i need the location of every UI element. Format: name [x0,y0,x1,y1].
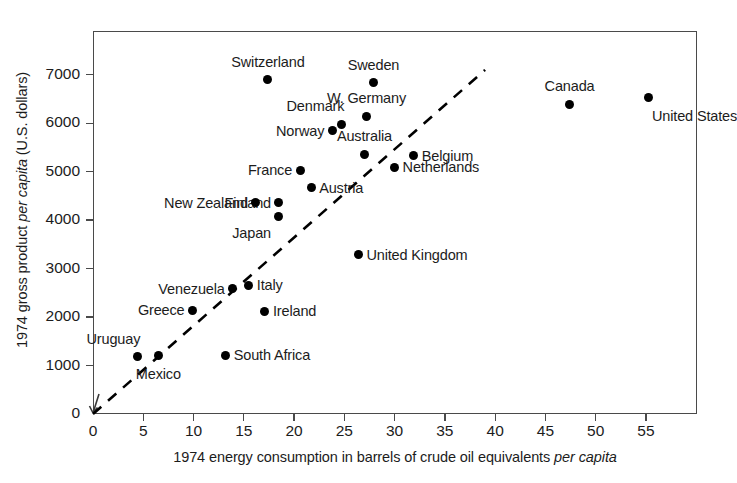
data-point-label: Canada [545,78,595,94]
x-tick-label: 20 [274,422,314,440]
data-point [221,351,230,360]
data-point-label: Mexico [136,366,181,382]
y-tick-mark [86,74,94,75]
data-point-label: France [248,162,292,178]
data-point-label: Australia [337,128,392,144]
data-point-label: South Africa [234,347,310,363]
x-tick-mark [595,413,596,421]
y-tick-label: 1000 [20,356,80,374]
x-tick-mark [293,413,294,421]
data-point-label: Greece [138,302,185,318]
y-tick-label: 7000 [20,65,80,83]
x-tick-label: 45 [525,422,565,440]
x-tick-mark [545,413,546,421]
y-axis-title-pre: 1974 gross product [14,222,30,348]
data-point [244,281,253,290]
y-tick-label: 3000 [20,259,80,277]
x-tick-label: 30 [375,422,415,440]
y-tick-label: 4000 [20,210,80,228]
data-point-label: Netherlands [403,159,480,175]
x-tick-mark [344,413,345,421]
data-point-label: Venezuela [158,281,224,297]
x-axis-title-plain: 1974 energy consumption in barrels of cr… [173,449,554,465]
y-tick-label: 2000 [20,307,80,325]
data-point [133,352,142,361]
x-tick-mark [243,413,244,421]
data-point-label: Denmark [287,98,345,114]
data-point-label: United States [652,108,737,124]
x-axis-title-italic: per capita [554,449,617,465]
y-tick-mark [86,316,94,317]
data-point-label: Switzerland [231,54,304,70]
x-axis-title: 1974 energy consumption in barrels of cr… [93,449,697,465]
data-point [354,250,363,259]
x-tick-label: 25 [324,422,364,440]
data-point-label: Sweden [348,57,400,73]
x-tick-label: 40 [475,422,515,440]
x-tick-label: 35 [425,422,465,440]
plot-area-frame [93,31,697,414]
x-tick-mark [143,413,144,421]
data-point [565,100,574,109]
data-point [296,166,305,175]
x-tick-mark [193,413,194,421]
x-tick-label: 50 [576,422,616,440]
y-tick-mark [86,365,94,366]
data-point-label: Uruguay [86,331,140,347]
y-tick-label: 0 [20,404,80,422]
origin-arrow-icon [88,393,104,417]
data-point-label: Norway [276,123,324,139]
y-tick-mark [86,123,94,124]
x-tick-mark [444,413,445,421]
data-point [362,112,371,121]
data-point-label: Austria [319,180,363,196]
x-tick-label: 0 [73,422,113,440]
x-tick-mark [394,413,395,421]
data-point [188,306,197,315]
y-tick-label: 6000 [20,113,80,131]
y-tick-mark [86,219,94,220]
x-tick-mark [495,413,496,421]
y-tick-mark [86,171,94,172]
data-point-label: United Kingdom [366,247,467,263]
x-tick-label: 10 [174,422,214,440]
y-tick-mark [86,268,94,269]
data-point-label: New Zealand [164,195,248,211]
data-point-label: Japan [232,225,271,241]
y-tick-label: 5000 [20,162,80,180]
data-point [390,163,399,172]
x-tick-label: 55 [626,422,666,440]
data-point [307,183,316,192]
x-tick-label: 15 [224,422,264,440]
x-tick-label: 5 [123,422,163,440]
x-tick-mark [645,413,646,421]
data-point-label: Ireland [273,303,316,319]
data-point-label: Italy [257,277,283,293]
data-point [360,150,369,159]
